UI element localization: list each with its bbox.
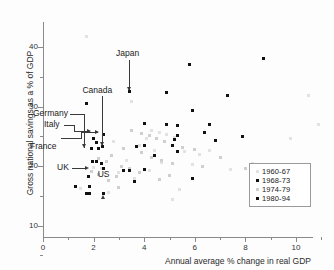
x-tick-0 (43, 237, 44, 242)
data-point (85, 102, 88, 105)
data-point (150, 129, 153, 132)
legend-marker-icon (253, 197, 262, 200)
annotation-uk: UK (57, 163, 69, 172)
data-point (219, 156, 222, 159)
y-tick-35 (40, 77, 43, 78)
data-point (138, 171, 141, 174)
scatter-plot-area: 10203040 0246810 JapanCanadaGermanyItaly… (0, 0, 334, 270)
legend-label: 1960-67 (262, 167, 290, 176)
legend-item-1980-94[interactable]: 1980-94 (253, 194, 307, 203)
annotation-germany: Germany (33, 109, 68, 118)
data-point (90, 170, 93, 173)
data-point (88, 185, 91, 188)
x-tick-label-2: 2 (79, 244, 109, 252)
leader-france-2 (81, 132, 82, 139)
data-point (193, 148, 196, 151)
data-point (183, 150, 186, 153)
data-point (88, 192, 91, 195)
data-point (165, 133, 168, 136)
chart-legend[interactable]: 1960-671968-731974-791980-94 (249, 163, 311, 207)
leader-japan-arrow (127, 87, 131, 91)
data-point (160, 159, 163, 162)
data-point (148, 169, 151, 172)
x-axis-title: Annual average % change in real GDP (165, 256, 311, 266)
data-point (135, 145, 138, 148)
legend-marker-icon (253, 188, 262, 191)
data-point (143, 168, 146, 171)
data-point (208, 149, 211, 152)
data-point (176, 134, 179, 137)
x-tick-label-0: 0 (28, 244, 58, 252)
legend-item-1960-67[interactable]: 1960-67 (253, 167, 307, 176)
x-tick-8 (245, 237, 246, 242)
data-point (168, 174, 171, 177)
data-point (241, 135, 244, 138)
data-point (171, 144, 174, 147)
leader-italy (64, 125, 74, 126)
x-tick-label-4: 4 (129, 244, 159, 252)
y-tick-40 (38, 47, 43, 48)
data-point (122, 147, 125, 150)
leader-france (61, 138, 81, 139)
y-axis-title: Gross national savings as a % of GDP (25, 33, 35, 213)
y-tick-5 (40, 255, 43, 256)
data-point (122, 169, 125, 172)
legend-marker-icon (253, 179, 262, 182)
data-point (87, 175, 90, 178)
data-point (191, 109, 194, 112)
data-point (140, 151, 143, 154)
data-point (145, 137, 148, 140)
data-point (158, 131, 161, 134)
data-point (74, 185, 77, 188)
data-point (176, 124, 179, 127)
data-point (133, 180, 136, 183)
leader-us-arrow (101, 195, 105, 199)
data-point (112, 140, 115, 143)
data-point (203, 131, 206, 134)
legend-item-1974-79[interactable]: 1974-79 (253, 185, 307, 194)
leader-canada (102, 96, 103, 145)
y-axis-line (43, 22, 44, 237)
legend-swatch (256, 188, 259, 191)
data-point (214, 139, 217, 142)
data-point (110, 154, 113, 157)
data-point (198, 153, 201, 156)
x-tick-5 (170, 237, 171, 240)
data-point (171, 162, 174, 165)
data-point (128, 169, 131, 172)
data-point (107, 191, 110, 194)
x-tick-9 (271, 237, 272, 240)
data-point (130, 100, 133, 103)
y-tick-10 (38, 226, 43, 227)
data-point (262, 57, 265, 60)
x-tick-10 (296, 237, 297, 242)
y-tick-label-10: 10 (0, 222, 38, 230)
data-point (173, 138, 176, 141)
leader-canada-arrow (100, 142, 104, 146)
data-point (120, 165, 123, 168)
data-point (117, 186, 120, 189)
data-point (165, 91, 168, 94)
data-point (140, 132, 143, 135)
data-point (178, 188, 181, 191)
legend-item-1968-73[interactable]: 1968-73 (253, 176, 307, 185)
data-point (163, 140, 166, 143)
data-point (208, 123, 211, 126)
data-point (100, 162, 103, 165)
x-tick-label-10: 10 (281, 244, 311, 252)
leader-germany (70, 114, 84, 115)
data-point (117, 171, 120, 174)
annotation-us: US (98, 170, 110, 179)
data-point (130, 129, 133, 132)
data-point (289, 137, 292, 140)
x-tick-4 (144, 237, 145, 242)
legend-swatch (256, 170, 259, 173)
data-point (171, 198, 174, 201)
y-tick-15 (40, 196, 43, 197)
data-point (165, 123, 168, 126)
x-axis-line (43, 237, 313, 238)
data-point (79, 187, 82, 190)
data-point (153, 154, 156, 157)
data-point (191, 177, 194, 180)
data-point (105, 160, 108, 163)
